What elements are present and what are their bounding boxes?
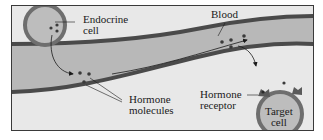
hormone-molecule <box>55 23 58 26</box>
hormone-receptor-label: Hormone receptor <box>200 89 242 111</box>
hormone-molecule <box>49 26 52 29</box>
hormone-molecule <box>55 29 58 32</box>
hormone-receptor <box>258 89 270 97</box>
endocrine-cell <box>25 6 75 45</box>
label-line: cell <box>83 25 128 36</box>
label-line: molecules <box>129 105 174 116</box>
blood-label: Blood <box>211 9 238 20</box>
label-line: receptor <box>200 100 242 111</box>
label-line: Blood <box>211 9 238 20</box>
label-line: cell <box>265 117 293 128</box>
target-cell-label: Target cell <box>265 106 293 128</box>
hormone-molecule <box>282 81 285 84</box>
endocrine-cell-label: Endocrine cell <box>83 14 128 36</box>
endocrine-signaling-diagram: Endocrine cell Blood Hormone molecules H… <box>11 5 314 131</box>
hormone-molecules-label: Hormone molecules <box>129 94 174 116</box>
hormone-receptor-empty <box>292 87 302 95</box>
